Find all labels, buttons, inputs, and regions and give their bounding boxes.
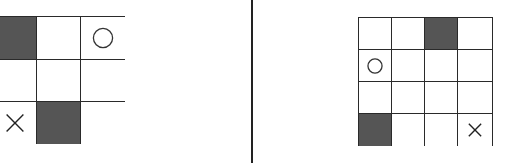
right-grid-cell-r1-c4: [458, 18, 492, 50]
right-grid-cell-r3-c4: [458, 82, 492, 114]
cross-icon: [464, 119, 486, 141]
right-grid-cell-r1-c2: [392, 18, 425, 50]
circle-icon: [88, 23, 118, 53]
cross-icon: [0, 108, 30, 138]
left-grid-cell-r1-c1: [0, 17, 37, 60]
left-grid-cell-r2-c1: [0, 60, 37, 102]
right-grid-cell-r2-c3: [425, 50, 458, 82]
right-grid-cell-r2-c1: [359, 50, 392, 82]
right-grid-cell-r3-c2: [392, 82, 425, 114]
left-grid-cell-r2-c3: [81, 60, 125, 102]
right-grid-cell-r4-c4: [458, 114, 492, 146]
circle-icon: [364, 55, 386, 77]
left-grid-cell-r1-c2: [37, 17, 81, 60]
left-grid-cell-r1-c3: [81, 17, 125, 60]
right-grid-cell-r3-c1: [359, 82, 392, 114]
right-grid-cell-r2-c2: [392, 50, 425, 82]
right-grid-cell-r4-c3: [425, 114, 458, 146]
right-grid-cell-r1-c1: [359, 18, 392, 50]
right-grid-4x4: [358, 17, 493, 146]
right-grid-cell-r3-c3: [425, 82, 458, 114]
left-grid-cell-r3-c2: [37, 102, 81, 144]
right-grid-cell-r2-c4: [458, 50, 492, 82]
left-grid-3x3: [0, 16, 125, 144]
right-grid-cell-r4-c2: [392, 114, 425, 146]
left-grid-cell-r3-c1: [0, 102, 37, 144]
panel-divider: [251, 0, 253, 163]
right-grid-cell-r4-c1: [359, 114, 392, 146]
left-grid-cell-r3-c3: [81, 102, 125, 144]
left-grid-cell-r2-c2: [37, 60, 81, 102]
right-grid-cell-r1-c3: [425, 18, 458, 50]
